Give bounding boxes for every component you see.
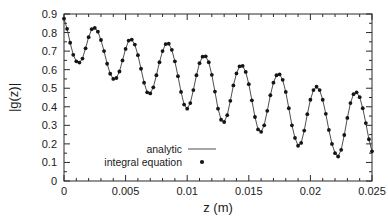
data-point <box>259 130 263 134</box>
x-axis-title: z (m) <box>203 200 233 215</box>
y-tick-label: 0.6 <box>42 64 57 76</box>
y-axis-title: |g(z)| <box>6 83 21 112</box>
data-point <box>84 46 88 50</box>
legend-sample-dot <box>200 160 204 164</box>
data-point <box>296 144 300 148</box>
damped-oscillation-plot: 00.0050.010.0150.020.02500.10.20.30.40.5… <box>0 0 388 222</box>
y-tick-label: 0.4 <box>42 101 57 113</box>
data-point <box>290 123 294 127</box>
data-point <box>287 106 291 110</box>
data-point <box>130 38 134 42</box>
data-point <box>336 155 340 159</box>
data-point <box>173 59 177 63</box>
data-point <box>195 73 199 77</box>
data-point <box>293 136 297 140</box>
data-point <box>93 26 97 30</box>
data-point <box>256 128 260 132</box>
data-point <box>210 73 214 77</box>
data-point <box>272 81 276 85</box>
data-point <box>62 17 66 21</box>
data-point <box>268 93 272 97</box>
data-point <box>333 151 337 155</box>
series-points-integral-equation <box>62 17 374 159</box>
y-tick-label: 0 <box>51 175 57 187</box>
x-tick-label: 0.01 <box>176 185 197 197</box>
data-point <box>204 54 208 58</box>
data-point <box>96 30 100 34</box>
data-point <box>370 149 374 153</box>
data-point <box>198 61 202 65</box>
data-point <box>235 71 239 75</box>
data-point <box>148 92 152 96</box>
data-point <box>158 60 162 64</box>
data-point <box>265 109 269 113</box>
data-point <box>327 128 331 132</box>
data-point <box>102 49 106 53</box>
data-point <box>232 84 236 88</box>
data-point <box>358 95 362 99</box>
data-point <box>155 73 159 77</box>
x-tick-label: 0.02 <box>300 185 321 197</box>
data-point <box>139 67 143 71</box>
y-tick-label: 0.7 <box>42 45 57 57</box>
data-point <box>355 90 359 94</box>
data-point <box>118 70 122 74</box>
data-point <box>364 121 368 125</box>
data-point <box>345 116 349 120</box>
data-point <box>281 78 285 82</box>
data-point <box>361 106 365 110</box>
data-point <box>176 74 180 78</box>
data-point <box>108 72 112 76</box>
data-point <box>250 98 254 102</box>
data-point <box>321 98 325 102</box>
data-point <box>315 85 319 89</box>
data-point <box>305 112 309 116</box>
data-point <box>222 120 226 124</box>
data-point <box>182 103 186 107</box>
data-point <box>324 112 328 116</box>
data-point <box>99 38 103 42</box>
data-point <box>253 115 257 119</box>
y-tick-label: 0.8 <box>42 27 57 39</box>
data-point <box>244 70 248 74</box>
data-point <box>105 62 109 66</box>
data-point <box>241 64 245 68</box>
data-point <box>367 137 371 141</box>
data-point <box>170 48 174 52</box>
data-point <box>179 90 183 94</box>
data-point <box>330 142 334 146</box>
data-point <box>188 101 192 105</box>
data-point <box>87 35 91 39</box>
data-point <box>247 82 251 86</box>
data-point <box>136 53 140 57</box>
data-point <box>191 88 195 92</box>
data-point <box>167 42 171 46</box>
x-tick-label: 0 <box>61 185 67 197</box>
data-point <box>213 90 217 94</box>
data-point <box>349 101 353 105</box>
data-point <box>65 27 69 31</box>
chart-figure: 00.0050.010.0150.020.02500.10.20.30.40.5… <box>0 0 388 222</box>
data-point <box>216 107 220 111</box>
data-point <box>71 53 75 57</box>
data-point <box>133 43 137 47</box>
data-point <box>339 148 343 152</box>
y-tick-label: 0.2 <box>42 138 57 150</box>
data-point <box>207 60 211 64</box>
data-point <box>228 99 232 103</box>
data-point <box>151 85 155 89</box>
data-point <box>185 107 189 111</box>
legend: analyticintegral equation <box>104 143 216 168</box>
data-point <box>262 123 266 127</box>
data-point <box>114 76 118 80</box>
data-point <box>342 133 346 137</box>
data-point <box>68 41 72 45</box>
data-point <box>299 141 303 145</box>
data-point <box>219 118 223 122</box>
data-point <box>124 47 128 51</box>
series-line-analytic <box>64 19 372 157</box>
data-point <box>121 58 125 62</box>
data-point <box>284 90 288 94</box>
y-tick-label: 0.3 <box>42 119 57 131</box>
data-point <box>225 113 229 117</box>
